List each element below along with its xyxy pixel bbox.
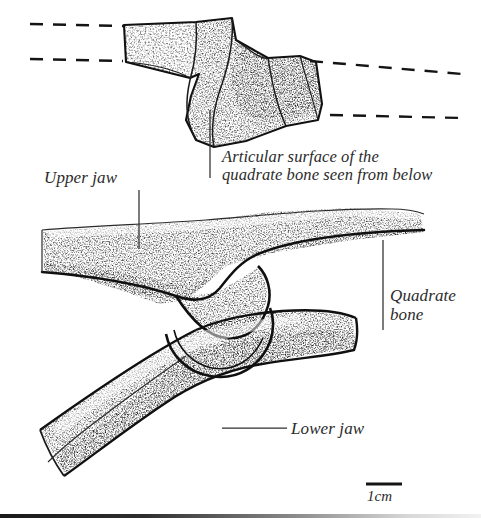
label-lower-jaw: Lower jaw	[291, 419, 364, 438]
label-quadrate-bone-line1: Quadrate	[390, 286, 456, 305]
label-articular-surface-line1: Articular surface of the	[222, 147, 379, 166]
label-scale-bar: 1cm	[367, 488, 392, 505]
label-articular-surface: Articular surface of thequadrate bone se…	[222, 148, 432, 185]
page-bottom-rule	[0, 514, 481, 518]
label-quadrate-bone-line2: bone	[390, 305, 423, 324]
label-upper-jaw: Upper jaw	[44, 168, 117, 187]
label-quadrate-bone: Quadratebone	[390, 286, 456, 324]
label-articular-surface-line2: quadrate bone seen from below	[222, 165, 432, 184]
anatomical-figure	[0, 0, 481, 526]
